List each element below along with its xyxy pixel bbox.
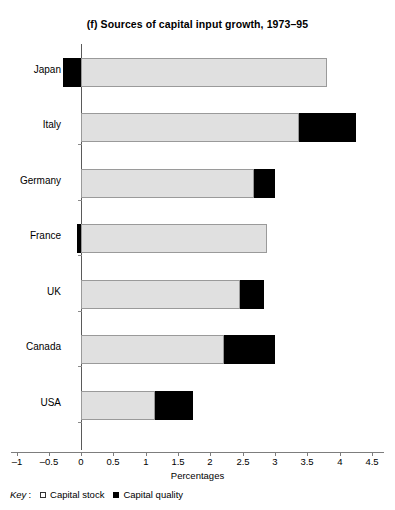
y-axis-label-canada: Canada bbox=[0, 341, 61, 352]
bar-segment-capital-quality bbox=[254, 169, 275, 198]
bar-row-germany: Germany bbox=[0, 169, 395, 198]
bar-segment-capital-stock bbox=[81, 58, 327, 87]
legend-entry-capital-stock: Capital stock bbox=[40, 489, 104, 500]
legend-entry-capital-quality: Capital quality bbox=[113, 489, 183, 500]
chart-title: (f) Sources of capital input growth, 197… bbox=[0, 18, 395, 30]
y-axis-label-germany: Germany bbox=[0, 175, 61, 186]
y-axis-tick bbox=[78, 255, 82, 256]
bar-segment-capital-quality bbox=[224, 335, 275, 364]
bar-segment-capital-stock bbox=[81, 335, 224, 364]
y-axis-label-usa: USA bbox=[0, 397, 61, 408]
bar-segment-capital-quality bbox=[63, 58, 81, 87]
bar-segment-capital-stock bbox=[81, 224, 267, 253]
legend-swatch-capital-quality-icon bbox=[113, 492, 119, 498]
bar-row-italy: Italy bbox=[0, 113, 395, 142]
chart-figure: (f) Sources of capital input growth, 197… bbox=[0, 0, 395, 510]
bar-row-uk: UK bbox=[0, 280, 395, 309]
legend-title-colon: : bbox=[28, 489, 31, 500]
y-axis-label-japan: Japan bbox=[0, 64, 61, 75]
bar-segment-capital-stock bbox=[81, 391, 155, 420]
legend-swatch-capital-stock-icon bbox=[40, 492, 46, 498]
legend-label-capital-stock: Capital stock bbox=[50, 489, 104, 500]
bar-row-canada: Canada bbox=[0, 335, 395, 364]
bar-segment-capital-quality bbox=[299, 113, 356, 142]
y-axis-tick bbox=[78, 144, 82, 145]
chart-legend: Key: Capital stock Capital quality bbox=[10, 489, 183, 500]
y-axis-tick bbox=[78, 311, 82, 312]
x-axis-tick-label: 4.5 bbox=[352, 456, 392, 467]
legend-title: Key bbox=[10, 489, 26, 500]
y-axis-label-uk: UK bbox=[0, 286, 61, 297]
bar-segment-capital-quality bbox=[155, 391, 193, 420]
bar-row-france: France bbox=[0, 224, 395, 253]
bar-row-japan: Japan bbox=[0, 58, 395, 87]
y-axis-tick bbox=[78, 200, 82, 201]
bar-segment-capital-quality bbox=[240, 280, 264, 309]
y-axis-tick bbox=[78, 366, 82, 367]
y-axis-tick bbox=[78, 422, 82, 423]
bar-segment-capital-stock bbox=[81, 169, 254, 198]
bar-segment-capital-stock bbox=[81, 280, 240, 309]
x-axis-line bbox=[11, 452, 384, 453]
bar-row-usa: USA bbox=[0, 391, 395, 420]
legend-label-capital-quality: Capital quality bbox=[123, 489, 183, 500]
plot-area: Japan Italy Germany France UK bbox=[0, 44, 395, 452]
bar-segment-capital-stock bbox=[81, 113, 299, 142]
x-axis-title: Percentages bbox=[0, 470, 395, 481]
y-axis-label-italy: Italy bbox=[0, 119, 61, 130]
y-axis-label-france: France bbox=[0, 230, 61, 241]
